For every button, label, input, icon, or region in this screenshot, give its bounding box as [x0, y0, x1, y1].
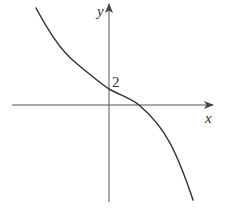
y-axis-label: y — [95, 3, 104, 19]
x-axis-label: x — [204, 110, 212, 126]
graph-canvas: y x 2 — [0, 0, 231, 210]
function-curve — [36, 8, 193, 200]
y-intercept-label: 2 — [112, 74, 120, 90]
